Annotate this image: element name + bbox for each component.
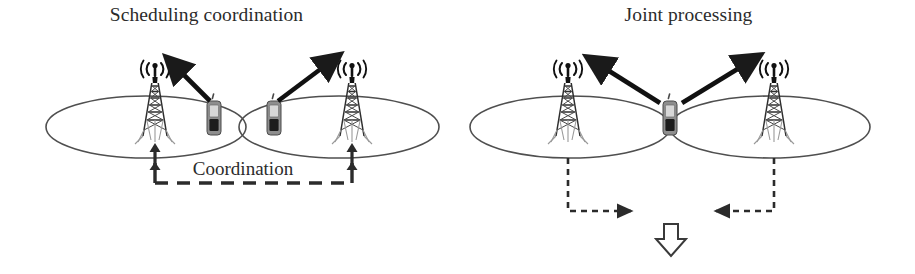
hollow-down-arrow-icon (656, 224, 686, 256)
scheduling-coordination-graphics (0, 0, 457, 274)
link-arrows (598, 62, 749, 103)
connector-left (568, 158, 631, 211)
link-ue-to-bts-left (598, 64, 660, 103)
link-ue-left-to-bts-left (175, 66, 210, 101)
ue-center (663, 94, 677, 135)
bts-left (135, 61, 175, 145)
bts-left (548, 61, 588, 145)
coordination-label: Coordination (148, 158, 338, 180)
bts-right (754, 61, 794, 145)
link-arrows (175, 62, 330, 101)
panel-scheduling-coordination: Scheduling coordination (0, 0, 457, 274)
connector-right (716, 158, 774, 211)
cell-boundaries (46, 96, 439, 158)
joint-processing-connector (568, 158, 774, 211)
comp-diagram: Scheduling coordination (0, 0, 915, 274)
bts-right (332, 61, 372, 145)
panel-joint-processing: Joint processing (458, 0, 915, 274)
link-ue-right-to-bts-right (278, 62, 330, 101)
joint-processing-graphics (458, 0, 915, 274)
